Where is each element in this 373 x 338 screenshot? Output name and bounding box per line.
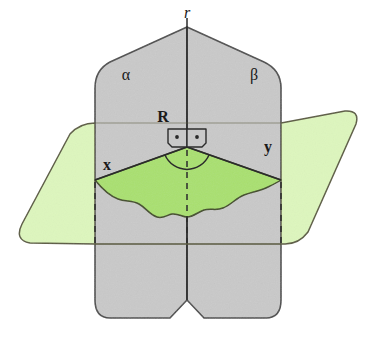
- label-ray-y: y: [264, 138, 272, 156]
- label-half-plane-beta: β: [250, 66, 258, 84]
- diagram-canvas: r α β R x y: [0, 0, 373, 338]
- right-angle-markers: [168, 129, 206, 147]
- label-edge-r: r: [184, 4, 191, 21]
- label-half-plane-alpha: α: [122, 66, 131, 83]
- right-angle-dot-right: [195, 135, 199, 139]
- label-ray-x: x: [103, 156, 111, 173]
- label-plane-R: R: [157, 108, 169, 125]
- right-angle-dot-left: [175, 135, 179, 139]
- dihedral-angle-figure: r α β R x y: [0, 0, 373, 338]
